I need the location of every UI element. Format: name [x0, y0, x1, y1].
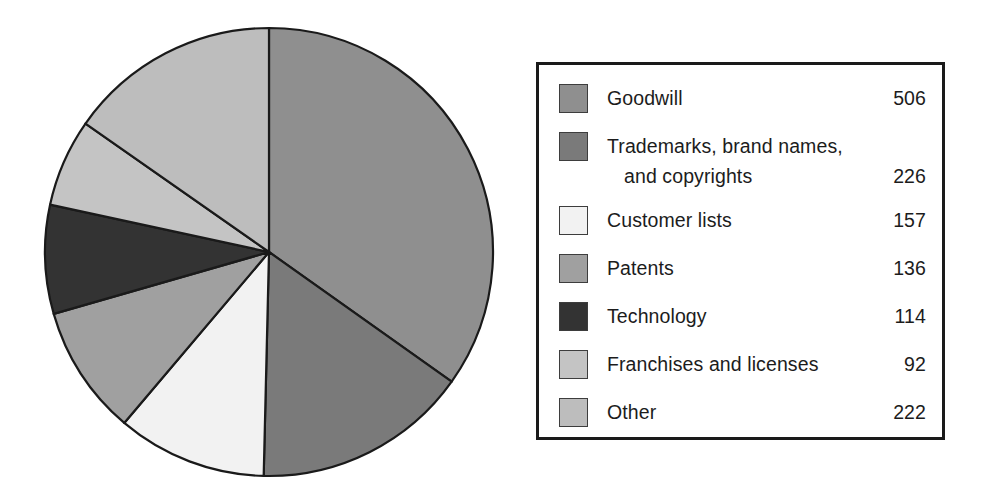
- legend-item-value: 114: [872, 301, 926, 331]
- legend-item-label-line1: Trademarks, brand names,: [607, 135, 843, 157]
- legend-item-label: Patents: [588, 253, 872, 283]
- legend-item-label-line1: Customer lists: [607, 209, 732, 231]
- legend-item-value: 506: [872, 83, 926, 113]
- legend-list: Goodwill506Trademarks, brand names,and c…: [559, 83, 926, 431]
- legend-item[interactable]: Trademarks, brand names,and copyrights22…: [559, 131, 926, 191]
- legend-item-value: 157: [872, 205, 926, 235]
- legend-item[interactable]: Other222: [559, 397, 926, 431]
- legend-item[interactable]: Technology114: [559, 301, 926, 335]
- legend-item[interactable]: Customer lists157: [559, 205, 926, 239]
- legend-item[interactable]: Patents136: [559, 253, 926, 287]
- legend-swatch: [559, 206, 588, 235]
- legend-item-label-line1: Franchises and licenses: [607, 353, 819, 375]
- legend-item-label-line1: Goodwill: [607, 87, 683, 109]
- legend-item-label: Trademarks, brand names,and copyrights: [588, 131, 872, 191]
- legend-item-label-line1: Patents: [607, 257, 674, 279]
- legend-item[interactable]: Goodwill506: [559, 83, 926, 117]
- legend-item-label-line1: Other: [607, 401, 656, 423]
- legend-item-value: 136: [872, 253, 926, 283]
- legend-item-label-line2: and copyrights: [607, 161, 872, 191]
- legend-item-label: Other: [588, 397, 872, 427]
- legend-item-value: 226: [872, 161, 926, 191]
- legend-item-label: Goodwill: [588, 83, 872, 113]
- legend-item-value: 222: [872, 397, 926, 427]
- pie-chart: Goodwill: 506Trademarks, brand names, an…: [0, 0, 540, 492]
- legend-item-label: Technology: [588, 301, 872, 331]
- legend-swatch: [559, 84, 588, 113]
- pie-slice-group: Goodwill: 506Trademarks, brand names, an…: [45, 28, 493, 476]
- legend-item-label: Customer lists: [588, 205, 872, 235]
- legend-item-value: 92: [872, 349, 926, 379]
- legend-swatch: [559, 254, 588, 283]
- legend-item[interactable]: Franchises and licenses92: [559, 349, 926, 383]
- legend-swatch: [559, 398, 588, 427]
- legend-item-label: Franchises and licenses: [588, 349, 872, 379]
- pie-chart-figure: Goodwill: 506Trademarks, brand names, an…: [0, 0, 984, 492]
- legend-swatch: [559, 350, 588, 379]
- legend-swatch: [559, 302, 588, 331]
- legend-swatch: [559, 132, 588, 161]
- legend-panel: Goodwill506Trademarks, brand names,and c…: [536, 62, 945, 440]
- legend-item-label-line1: Technology: [607, 305, 707, 327]
